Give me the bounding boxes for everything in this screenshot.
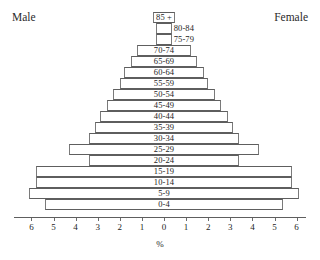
age-band-label: 70-74 xyxy=(137,45,190,56)
x-axis-tick-label: 5 xyxy=(51,222,56,233)
pyramid-bar-row: 50-54 xyxy=(0,89,320,100)
pyramid-bar-row: 65-69 xyxy=(0,56,320,67)
x-axis-tick-label: 2 xyxy=(118,222,123,233)
population-pyramid-figure: Male Female 85 +80-8475-7970-7465-6960-6… xyxy=(0,0,320,260)
pyramid-bar-row: 0-4 xyxy=(0,199,320,210)
x-axis-tick-label: 3 xyxy=(95,222,100,233)
pyramid-bar-row: 10-14 xyxy=(0,177,320,188)
x-axis-tick-mark xyxy=(120,218,121,221)
pyramid-bar-row: 20-24 xyxy=(0,155,320,166)
x-axis-tick-label: 2 xyxy=(206,222,211,233)
x-axis-tick-mark xyxy=(230,218,231,221)
pyramid-bar-row: 85 + xyxy=(0,12,320,23)
x-axis-tick-mark xyxy=(54,218,55,221)
pyramid-bar-row: 25-29 xyxy=(0,144,320,155)
age-band-label: 10-14 xyxy=(36,177,292,188)
x-axis-line xyxy=(14,217,306,218)
age-band-label: 5-9 xyxy=(29,188,299,199)
pyramid-bar-row: 30-34 xyxy=(0,133,320,144)
pyramid-plot-area: 85 +80-8475-7970-7465-6960-6455-5950-544… xyxy=(0,0,320,218)
pyramid-bar-row: 5-9 xyxy=(0,188,320,199)
age-band-label: 30-34 xyxy=(89,133,239,144)
x-axis-tick-mark xyxy=(275,218,276,221)
x-axis-tick-mark xyxy=(76,218,77,221)
x-axis-tick-mark xyxy=(186,218,187,221)
age-band-label: 50-54 xyxy=(113,89,215,100)
age-band-label: 85 + xyxy=(155,12,173,23)
age-band-label: 15-19 xyxy=(36,166,292,177)
x-axis-tick-mark xyxy=(252,218,253,221)
age-band-label: 40-44 xyxy=(100,111,228,122)
age-band-label: 55-59 xyxy=(120,78,208,89)
age-band-label: 75-79 xyxy=(174,34,194,45)
age-band-label: 65-69 xyxy=(131,56,197,67)
x-axis-tick-mark xyxy=(31,218,32,221)
age-band-label: 25-29 xyxy=(69,144,259,155)
pyramid-bar-row: 80-84 xyxy=(0,23,320,34)
x-axis-tick-label: 0 xyxy=(162,222,167,233)
pyramid-bar-row: 15-19 xyxy=(0,166,320,177)
age-band-label: 80-84 xyxy=(174,23,194,34)
pyramid-bar-row: 75-79 xyxy=(0,34,320,45)
x-axis-tick-label: 6 xyxy=(294,222,299,233)
pyramid-bar-row: 70-74 xyxy=(0,45,320,56)
x-axis-tick-label: 4 xyxy=(250,222,255,233)
age-band-label: 35-39 xyxy=(95,122,232,133)
pyramid-bar-row: 45-49 xyxy=(0,100,320,111)
pyramid-bar xyxy=(156,34,171,45)
x-axis-tick-label: 3 xyxy=(228,222,233,233)
x-axis-tick-label: 1 xyxy=(184,222,189,233)
age-band-label: 45-49 xyxy=(107,100,222,111)
x-axis-tick-label: 6 xyxy=(29,222,34,233)
pyramid-bar-row: 55-59 xyxy=(0,78,320,89)
x-axis-tick-mark xyxy=(208,218,209,221)
age-band-label: 20-24 xyxy=(89,155,239,166)
pyramid-bar-row: 40-44 xyxy=(0,111,320,122)
x-axis-tick-mark xyxy=(142,218,143,221)
x-axis-title: % xyxy=(0,239,320,250)
x-axis-tick-label: 4 xyxy=(73,222,78,233)
pyramid-bar xyxy=(156,23,171,34)
pyramid-bar-row: 60-64 xyxy=(0,67,320,78)
pyramid-bar-row: 35-39 xyxy=(0,122,320,133)
x-axis-tick-mark xyxy=(164,218,165,221)
age-band-label: 0-4 xyxy=(45,199,284,210)
age-band-label: 60-64 xyxy=(124,67,204,78)
x-axis-tick-label: 5 xyxy=(272,222,277,233)
x-axis-tick-label: 1 xyxy=(140,222,145,233)
x-axis-tick-mark xyxy=(297,218,298,221)
x-axis-tick-mark xyxy=(98,218,99,221)
